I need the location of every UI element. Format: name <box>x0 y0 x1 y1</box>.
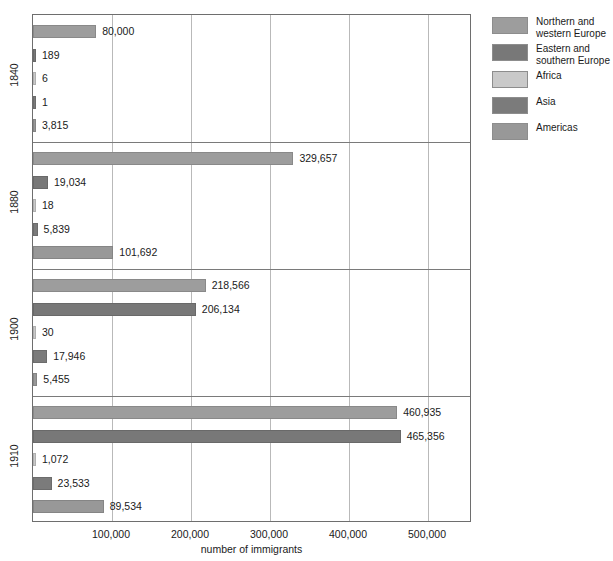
bar-row: 30 <box>33 326 472 339</box>
bar-value-label: 6 <box>42 70 48 86</box>
year-label-text: 1900 <box>8 317 20 340</box>
group-separator-1910 <box>33 396 470 397</box>
bar-value-label: 89,534 <box>110 498 142 514</box>
year-label-1900: 1900 <box>0 323 28 335</box>
bar-row: 1,072 <box>33 453 472 466</box>
bar-value-label: 465,356 <box>407 428 445 444</box>
gridline-100000 <box>112 15 113 521</box>
bar-1910-series-0[interactable] <box>33 406 397 419</box>
legend-swatch-icon <box>492 71 528 88</box>
bar-row: 101,692 <box>33 246 472 259</box>
x-tick-200000: 200,000 <box>171 528 209 540</box>
legend-label: Eastern and southern Europe <box>536 43 610 66</box>
bar-row: 5,455 <box>33 373 472 386</box>
x-tick-100000: 100,000 <box>92 528 130 540</box>
bar-value-label: 3,815 <box>42 117 68 133</box>
bar-value-label: 206,134 <box>202 301 240 317</box>
legend-item-3[interactable]: Asia <box>492 96 610 118</box>
legend: Northern and western EuropeEastern and s… <box>492 16 610 148</box>
x-tick-500000: 500,000 <box>408 528 446 540</box>
bar-row: 329,657 <box>33 152 472 165</box>
legend-label: Northern and western Europe <box>536 16 610 39</box>
year-label-text: 1840 <box>8 63 20 86</box>
year-label-text: 1910 <box>8 444 20 467</box>
bar-1880-series-4[interactable] <box>33 246 113 259</box>
plot-area: 80,000189613,815329,65719,034185,839101,… <box>32 14 471 522</box>
gridline-200000 <box>191 15 192 521</box>
bar-1910-series-1[interactable] <box>33 430 401 443</box>
legend-swatch-icon <box>492 44 528 61</box>
bar-value-label: 17,946 <box>53 348 85 364</box>
bar-row: 17,946 <box>33 350 472 363</box>
legend-item-2[interactable]: Africa <box>492 70 610 92</box>
bar-1840-series-4[interactable] <box>33 119 36 132</box>
bar-value-label: 23,533 <box>58 475 90 491</box>
bar-1910-series-4[interactable] <box>33 500 104 513</box>
legend-item-0[interactable]: Northern and western Europe <box>492 16 610 39</box>
bar-row: 19,034 <box>33 176 472 189</box>
legend-swatch-icon <box>492 97 528 114</box>
bar-1840-series-3[interactable] <box>33 96 36 109</box>
bar-1900-series-3[interactable] <box>33 350 47 363</box>
legend-item-4[interactable]: Americas <box>492 122 610 144</box>
bar-1840-series-2[interactable] <box>33 72 36 85</box>
legend-label: Americas <box>536 122 610 134</box>
legend-label: Asia <box>536 96 610 108</box>
legend-swatch-icon <box>492 17 528 34</box>
bar-row: 460,935 <box>33 406 472 419</box>
bar-1900-series-1[interactable] <box>33 303 196 316</box>
group-separator-1900 <box>33 269 470 270</box>
bar-1900-series-2[interactable] <box>33 326 36 339</box>
bar-1880-series-1[interactable] <box>33 176 48 189</box>
group-separator-1880 <box>33 142 470 143</box>
bar-value-label: 189 <box>42 47 60 63</box>
bar-1900-series-0[interactable] <box>33 279 206 292</box>
bar-row: 465,356 <box>33 430 472 443</box>
bar-row: 5,839 <box>33 223 472 236</box>
bar-value-label: 18 <box>42 197 54 213</box>
gridline-500000 <box>428 15 429 521</box>
gridline-400000 <box>349 15 350 521</box>
bar-value-label: 80,000 <box>102 23 134 39</box>
bar-1880-series-2[interactable] <box>33 199 36 212</box>
year-label-1880: 1880 <box>0 196 28 208</box>
bar-row: 23,533 <box>33 477 472 490</box>
bar-row: 80,000 <box>33 25 472 38</box>
bar-row: 189 <box>33 49 472 62</box>
bar-value-label: 19,034 <box>54 174 86 190</box>
bar-1880-series-3[interactable] <box>33 223 38 236</box>
x-tick-400000: 400,000 <box>329 528 367 540</box>
bar-1910-series-3[interactable] <box>33 477 52 490</box>
legend-item-1[interactable]: Eastern and southern Europe <box>492 43 610 66</box>
immigration-bar-chart: 80,000189613,815329,65719,034185,839101,… <box>0 0 613 561</box>
legend-label: Africa <box>536 70 610 82</box>
bar-1900-series-4[interactable] <box>33 373 37 386</box>
bar-row: 1 <box>33 96 472 109</box>
legend-swatch-icon <box>492 123 528 140</box>
year-label-1840: 1840 <box>0 69 28 81</box>
bar-row: 218,566 <box>33 279 472 292</box>
x-tick-300000: 300,000 <box>250 528 288 540</box>
bar-row: 3,815 <box>33 119 472 132</box>
bar-value-label: 5,839 <box>44 221 70 237</box>
bar-value-label: 5,455 <box>43 371 69 387</box>
bar-value-label: 30 <box>42 324 54 340</box>
bar-row: 6 <box>33 72 472 85</box>
bar-value-label: 218,566 <box>212 277 250 293</box>
bar-1840-series-0[interactable] <box>33 25 96 38</box>
bar-value-label: 101,692 <box>119 244 157 260</box>
year-label-text: 1880 <box>8 190 20 213</box>
bar-row: 18 <box>33 199 472 212</box>
bar-value-label: 1 <box>42 94 48 110</box>
bar-1910-series-2[interactable] <box>33 453 36 466</box>
bar-1840-series-1[interactable] <box>33 49 36 62</box>
x-axis-title: number of immigrants <box>32 543 471 555</box>
bar-value-label: 329,657 <box>299 150 337 166</box>
gridline-300000 <box>270 15 271 521</box>
bar-row: 206,134 <box>33 303 472 316</box>
bar-value-label: 1,072 <box>42 451 68 467</box>
bar-row: 89,534 <box>33 500 472 513</box>
bar-1880-series-0[interactable] <box>33 152 293 165</box>
year-label-1910: 1910 <box>0 450 28 462</box>
bar-value-label: 460,935 <box>403 404 441 420</box>
